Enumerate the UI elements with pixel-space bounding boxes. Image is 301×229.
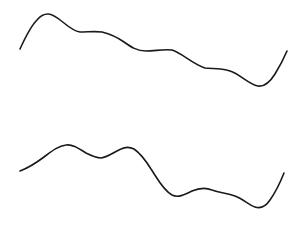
- bottom-wavy-line: [20, 145, 284, 208]
- diagram-canvas: [0, 0, 301, 229]
- top-wavy-line: [20, 14, 287, 86]
- curves-svg: [0, 0, 301, 229]
